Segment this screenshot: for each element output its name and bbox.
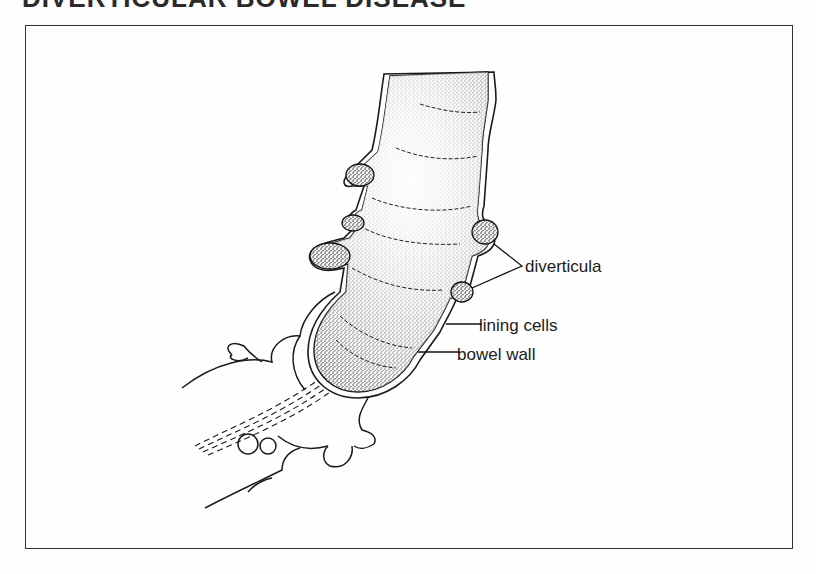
vessel-lines — [195, 380, 330, 455]
label-bowel-wall: bowel wall — [457, 346, 535, 363]
bowel-illustration — [0, 0, 816, 574]
label-lining-cells: lining cells — [479, 317, 557, 334]
label-diverticula: diverticula — [525, 258, 602, 275]
